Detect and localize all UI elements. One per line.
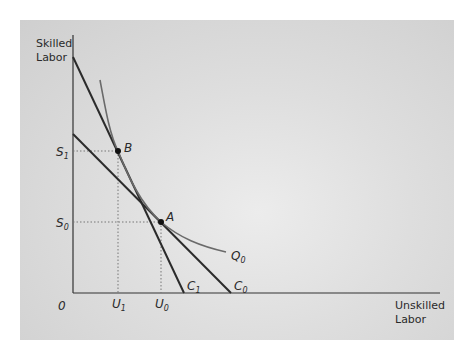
point-a: [158, 219, 164, 225]
y-axis-label-line1: Skilled: [36, 37, 72, 50]
y-axis-label-line2: Labor: [36, 51, 68, 64]
u0-label: U0: [155, 297, 169, 313]
s1-label: S1: [56, 145, 69, 161]
isoquant-curve-q0: [100, 80, 226, 252]
c0-label: C0: [234, 279, 247, 295]
x-axis-label-line2: Labor: [395, 313, 427, 326]
u1-label: U1: [112, 297, 126, 313]
point-b-label: B: [124, 141, 132, 155]
isoquant-diagram: Skilled Labor Unskilled Labor 0 B A S1 S…: [0, 0, 476, 355]
c1-label: C1: [187, 279, 200, 295]
x-axis-label-line1: Unskilled: [395, 299, 445, 312]
origin-label: 0: [58, 299, 66, 313]
point-a-label: A: [165, 210, 174, 224]
q0-label: Q0: [231, 249, 246, 265]
s0-label: S0: [56, 216, 69, 232]
point-b: [115, 148, 121, 154]
